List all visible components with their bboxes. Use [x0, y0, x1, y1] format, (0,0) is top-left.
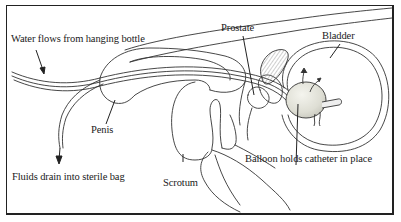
label-scrotum: Scrotum — [163, 178, 198, 189]
scrotum-shape — [172, 82, 237, 160]
label-fluids-drain: Fluids drain into sterile bag — [12, 172, 125, 183]
rectum-lines — [239, 82, 245, 125]
label-water-inflow: Water flows from hanging bottle — [11, 34, 145, 45]
water-inflow-arrow-icon — [40, 67, 45, 74]
drain-outflow-arrow-icon — [56, 156, 62, 164]
catheter-balloon — [286, 82, 342, 118]
label-penis: Penis — [91, 125, 113, 136]
rectum-lines-2 — [247, 108, 252, 140]
seminal-vesicle-shape — [260, 50, 288, 85]
penis-shape — [100, 48, 246, 103]
label-prostate: Prostate — [221, 23, 254, 34]
drain-tube — [59, 80, 103, 148]
direction-arrows — [36, 50, 62, 164]
label-bladder: Bladder — [322, 31, 355, 42]
label-balloon: Balloon holds catheter in place — [245, 154, 372, 165]
